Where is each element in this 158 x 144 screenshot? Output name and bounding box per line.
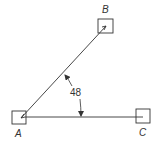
point-label-a: A — [14, 128, 22, 139]
station-c-box — [136, 109, 150, 123]
angle-value-label: 48 — [70, 87, 82, 98]
angle-diagram: 48 B A C — [0, 0, 158, 144]
angle-arc-lower — [80, 99, 81, 116]
point-label-b: B — [102, 4, 109, 15]
angle-arc-upper — [65, 75, 72, 86]
point-label-c: C — [139, 127, 147, 138]
line-ab — [21, 26, 106, 118]
